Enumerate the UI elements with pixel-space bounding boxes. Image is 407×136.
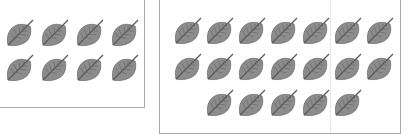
leaf-icon	[365, 52, 395, 82]
leaf-icon	[173, 16, 203, 46]
leaf-icon	[333, 52, 363, 82]
leaf-icon	[237, 16, 267, 46]
leaf-icon	[205, 52, 235, 82]
leaf-icon	[301, 16, 331, 46]
leaf-icon	[110, 53, 140, 83]
leaf-icon	[237, 88, 267, 118]
leaf-icon	[333, 16, 363, 46]
leaf-icon	[269, 16, 299, 46]
leaf-icon	[301, 88, 331, 118]
leaf-icon	[5, 53, 35, 83]
leaf-icon	[237, 52, 267, 82]
leaf-icon	[75, 53, 105, 83]
leaf-icon	[5, 18, 35, 48]
left-leaf-group	[0, 0, 145, 108]
leaf-icon	[269, 52, 299, 82]
leaf-icon	[205, 88, 235, 118]
leaf-icon	[75, 18, 105, 48]
leaf-icon	[40, 18, 70, 48]
leaf-icon	[333, 88, 363, 118]
leaf-icon	[269, 88, 299, 118]
leaf-icon	[205, 16, 235, 46]
leaf-icon	[110, 18, 140, 48]
leaf-icon	[40, 53, 70, 83]
leaf-icon	[173, 52, 203, 82]
leaf-icon	[365, 16, 395, 46]
leaf-icon	[301, 52, 331, 82]
right-leaf-group	[159, 0, 401, 134]
